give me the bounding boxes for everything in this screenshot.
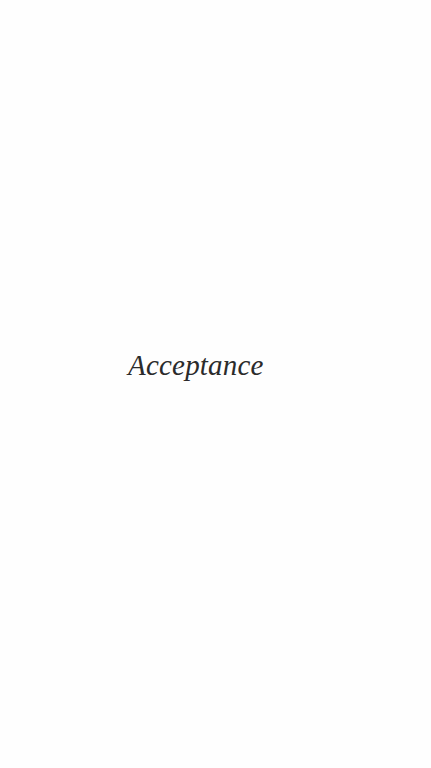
section-heading: Acceptance	[128, 345, 264, 385]
document-page: Acceptance	[0, 0, 431, 768]
